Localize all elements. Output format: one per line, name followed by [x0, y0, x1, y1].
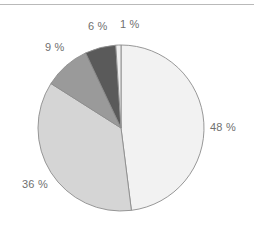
pie-label-48: 48 %	[210, 122, 236, 133]
pie-chart-figure: 48 % 36 % 9 % 6 % 1 %	[0, 0, 254, 238]
pie-label-1: 1 %	[120, 19, 140, 30]
pie-chart-canvas	[0, 0, 254, 238]
pie-label-36: 36 %	[22, 179, 48, 190]
pie-label-6: 6 %	[88, 21, 108, 32]
pie-slice-48-percent	[121, 45, 204, 210]
pie-label-9: 9 %	[45, 42, 65, 53]
pie-slice-group	[38, 45, 204, 211]
